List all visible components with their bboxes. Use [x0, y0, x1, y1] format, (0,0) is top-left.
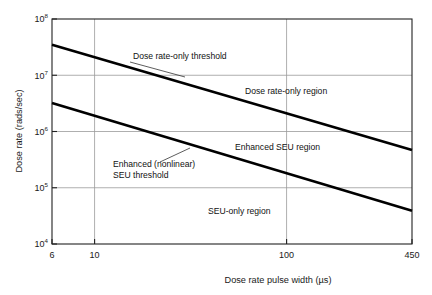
series-group: [52, 45, 412, 211]
chart-canvas: 104105106107108 610100450 Dose rate-only…: [0, 0, 432, 295]
y-tick-label: 105: [35, 181, 49, 193]
x-tick-labels-group: 610100450: [49, 250, 419, 260]
threshold-line: [52, 103, 412, 211]
region-label-enhanced-seu-region: Enhanced SEU region: [235, 142, 320, 152]
annotation-text-group: Dose rate-only thresholdEnhanced (nonlin…: [113, 51, 227, 180]
y-tick-labels-group: 104105106107108: [35, 12, 49, 249]
y-axis-title: Dose rate (rads/sec): [14, 89, 24, 172]
dose-rate-seu-threshold-chart: 104105106107108 610100450 Dose rate-only…: [0, 0, 432, 295]
region-label-seu-only-region: SEU-only region: [208, 206, 271, 216]
y-tick-label: 104: [35, 237, 49, 249]
threshold-line: [52, 45, 412, 150]
annotation-dose-rate-only-threshold: Dose rate-only threshold: [133, 51, 227, 61]
annotation-enhanced-seu-threshold: Enhanced (nonlinear)SEU threshold: [113, 159, 195, 180]
x-tick-label: 100: [279, 250, 294, 260]
y-tick-label: 108: [35, 12, 49, 24]
y-tick-label: 106: [35, 125, 49, 137]
x-tick-label: 10: [90, 250, 100, 260]
region-label-dose-rate-only-region: Dose rate-only region: [245, 86, 327, 96]
region-labels-group: Dose rate-only regionEnhanced SEU region…: [208, 86, 327, 216]
x-tick-label: 450: [404, 250, 419, 260]
y-tick-label: 107: [35, 69, 49, 81]
x-tick-label: 6: [49, 250, 54, 260]
x-axis-title: Dose rate pulse width (µs): [225, 275, 332, 285]
